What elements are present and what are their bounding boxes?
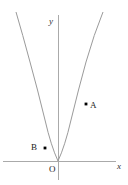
point-a-label: A <box>90 100 97 110</box>
point-a-marker <box>85 103 88 106</box>
point-b-marker <box>44 147 47 150</box>
parabola-figure: A B O y x <box>0 0 128 185</box>
y-axis-label: y <box>48 16 53 26</box>
origin-label: O <box>49 164 56 174</box>
plot-canvas: A B O y x <box>0 0 128 185</box>
point-b-label: B <box>31 142 37 152</box>
parabola-curve <box>16 12 103 161</box>
x-axis-label: x <box>116 161 121 171</box>
